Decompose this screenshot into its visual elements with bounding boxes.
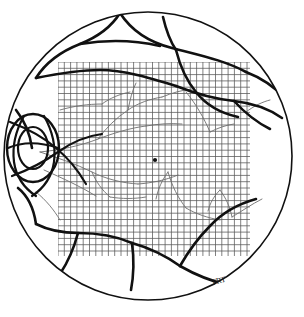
fovea-center-dot	[153, 158, 157, 162]
fundus-drawing-canvas: TRT	[0, 0, 304, 317]
fundus-figure: TRT	[0, 0, 304, 317]
